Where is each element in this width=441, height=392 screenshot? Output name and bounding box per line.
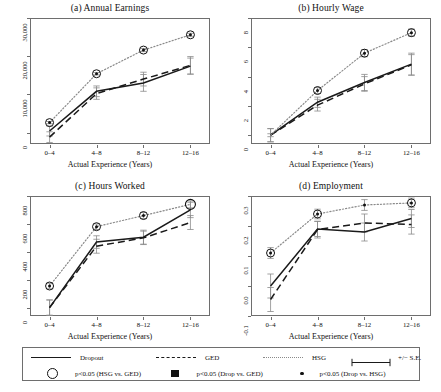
y-tick-label: 0.1 — [242, 256, 249, 286]
panel-hours-worked: (c) Hours Worked 0200400600800 0–44–88–1… — [0, 180, 220, 348]
x-tick-mark — [97, 317, 98, 320]
legend-label: HSG — [312, 354, 326, 362]
x-tick-label: 4–8 — [298, 149, 338, 156]
x-tick-label: 4–8 — [298, 321, 338, 328]
plot-svg — [30, 18, 210, 144]
x-tick-mark — [97, 145, 98, 148]
x-tick-label: 8–12 — [344, 149, 384, 156]
x-tick-mark — [318, 145, 319, 148]
y-tick-label: 800 — [21, 196, 28, 226]
x-tick-mark — [411, 317, 412, 320]
x-tick-mark — [271, 145, 272, 148]
x-tick-label: 8–12 — [123, 321, 163, 328]
legend-item-hsg: HSG — [263, 349, 326, 366]
legend-label: GED — [205, 354, 219, 362]
error-bar-icon — [351, 353, 391, 362]
y-tick-label: 0.0 — [242, 286, 249, 316]
x-tick-label: 8–12 — [123, 149, 163, 156]
x-tick-mark — [364, 317, 365, 320]
x-tick-label: 4–8 — [77, 321, 117, 328]
panel-title: (b) Hourly Wage — [221, 2, 441, 14]
panel-title: (c) Hours Worked — [0, 180, 220, 192]
legend-item-dropout: Dropout — [31, 349, 103, 366]
y-tick-label: 4 — [242, 76, 249, 106]
x-tick-mark — [411, 145, 412, 148]
plot-svg — [251, 18, 431, 144]
x-tick-mark — [190, 317, 191, 320]
filled-square-icon — [171, 370, 179, 378]
legend: Dropout GED HSG +/− S.E. — [22, 347, 420, 381]
x-tick-label: 8–12 — [344, 321, 384, 328]
x-tick-label: 0–4 — [251, 149, 291, 156]
x-axis-label: Actual Experience (Years) — [0, 332, 220, 341]
plot-area — [30, 196, 210, 316]
x-tick-mark — [143, 317, 144, 320]
panel-title: (a) Annual Earnings — [0, 2, 220, 14]
open-circle-icon — [47, 368, 58, 379]
y-tick-label: 6 — [242, 47, 249, 77]
y-tick-label: 400 — [21, 251, 28, 281]
panel-title: (d) Employment — [221, 180, 441, 192]
x-axis-label: Actual Experience (Years) — [0, 160, 220, 169]
x-tick-mark — [364, 145, 365, 148]
plot-svg — [30, 196, 210, 316]
legend-label: p<0.05 (Drop vs. GED) — [197, 370, 263, 378]
legend-label: p<0.05 (HSG vs. GED) — [75, 370, 141, 378]
plot-svg — [251, 196, 431, 316]
x-tick-mark — [143, 145, 144, 148]
y-tick-label: 0.2 — [242, 226, 249, 256]
plot-area — [251, 196, 431, 316]
y-tick-label: 30,000 — [21, 18, 28, 48]
x-tick-label: 0–4 — [251, 321, 291, 328]
small-dot-icon — [300, 372, 304, 376]
panel-hourly-wage: (b) Hourly Wage 02468 0–44–88–1212–16 Ac… — [221, 2, 441, 180]
y-tick-label: 600 — [21, 223, 28, 253]
legend-label: +/− S.E. — [398, 354, 421, 362]
legend-item-drop-vs-hsg: p<0.05 (Drop vs. HSG) — [300, 365, 385, 382]
x-tick-mark — [50, 317, 51, 320]
x-tick-mark — [50, 145, 51, 148]
y-tick-label: -0.1 — [242, 316, 249, 346]
x-tick-label: 0–4 — [30, 321, 70, 328]
x-tick-label: 12–16 — [391, 321, 431, 328]
legend-item-ged: GED — [156, 349, 219, 366]
y-tick-label: 10,000 — [21, 94, 28, 124]
x-axis-label: Actual Experience (Years) — [221, 160, 441, 169]
legend-label: Dropout — [80, 354, 103, 362]
y-tick-label: 200 — [21, 279, 28, 309]
legend-row-series: Dropout GED HSG +/− S.E. — [23, 349, 419, 366]
plot-area — [251, 18, 431, 144]
x-tick-label: 0–4 — [30, 149, 70, 156]
y-tick-label: 0 — [21, 132, 28, 162]
dotted-line-icon — [263, 357, 303, 358]
x-tick-label: 4–8 — [77, 149, 117, 156]
x-tick-mark — [271, 317, 272, 320]
panel-annual-earnings: (a) Annual Earnings 010,00020,00030,000 … — [0, 2, 220, 180]
x-tick-mark — [190, 145, 191, 148]
legend-row-significance: p<0.05 (HSG vs. GED) p<0.05 (Drop vs. GE… — [23, 365, 419, 382]
y-tick-label: 2 — [242, 105, 249, 135]
plot-area — [30, 18, 210, 144]
legend-label: p<0.05 (Drop vs. HSG) — [320, 370, 386, 378]
y-tick-label: 20,000 — [21, 56, 28, 86]
x-tick-label: 12–16 — [170, 321, 210, 328]
y-tick-label: 0.3 — [242, 196, 249, 226]
legend-item-standard-error: +/− S.E. — [351, 349, 421, 366]
solid-line-icon — [31, 357, 71, 358]
x-tick-mark — [318, 317, 319, 320]
legend-item-hsg-vs-ged: p<0.05 (HSG vs. GED) — [47, 365, 141, 382]
figure-root: (a) Annual Earnings 010,00020,00030,000 … — [0, 0, 441, 392]
x-tick-label: 12–16 — [391, 149, 431, 156]
dashed-line-icon — [156, 357, 196, 358]
y-tick-label: 8 — [242, 18, 249, 48]
x-axis-label: Actual Experience (Years) — [221, 332, 441, 341]
x-tick-label: 12–16 — [170, 149, 210, 156]
panel-employment: (d) Employment -0.10.00.10.20.3 0–44–88–… — [221, 180, 441, 348]
legend-item-drop-vs-ged: p<0.05 (Drop vs. GED) — [171, 365, 263, 382]
